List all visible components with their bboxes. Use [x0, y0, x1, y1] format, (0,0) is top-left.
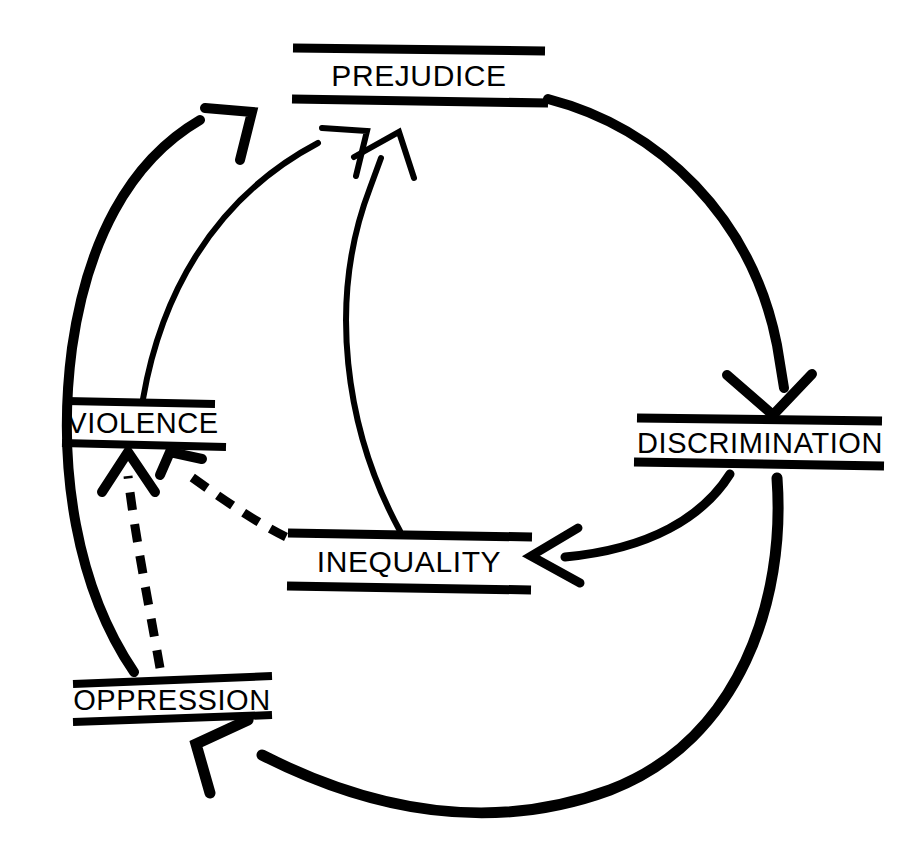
discrimination-rule-bottom — [634, 462, 884, 466]
diagram-canvas: PREJUDICE DISCRIMINATION INEQUALITY VIOL… — [0, 0, 922, 849]
edge-oppression-to-prejudice — [67, 108, 252, 672]
violence-rule-bottom — [62, 443, 226, 447]
cycle-of-oppression-diagram: PREJUDICE DISCRIMINATION INEQUALITY VIOL… — [0, 0, 922, 849]
inequality-rule-top — [288, 533, 532, 537]
oppression-label: OPPRESSION — [73, 684, 271, 716]
node-oppression: OPPRESSION — [73, 676, 272, 722]
violence-rule-top — [66, 401, 215, 404]
edge-violence-to-prejudice — [143, 128, 367, 399]
edge-inequality-to-violence — [160, 452, 286, 537]
edge-discrimination-to-inequality — [531, 474, 730, 583]
node-inequality: INEQUALITY — [287, 533, 532, 590]
prejudice-rule-bottom — [292, 99, 548, 103]
discrimination-rule-top — [637, 418, 882, 421]
edge-discrimination-to-oppression — [196, 478, 778, 813]
edge-inequality-to-prejudice — [346, 132, 414, 531]
discrimination-label: DISCRIMINATION — [637, 427, 883, 459]
inequality-rule-bottom — [287, 586, 531, 590]
violence-label: VIOLENCE — [67, 407, 218, 439]
edge-prejudice-to-discrimination — [548, 99, 812, 415]
node-violence: VIOLENCE — [62, 401, 226, 447]
prejudice-label: PREJUDICE — [331, 59, 506, 92]
node-discrimination: DISCRIMINATION — [634, 418, 884, 466]
inequality-label: INEQUALITY — [317, 545, 501, 578]
node-prejudice: PREJUDICE — [292, 48, 548, 103]
prejudice-rule-top — [293, 48, 545, 51]
